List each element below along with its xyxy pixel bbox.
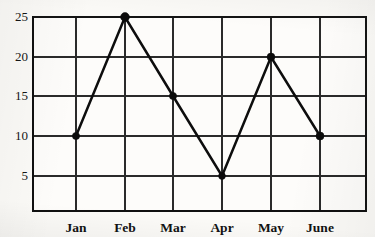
x-axis-tick-labels: Jan Feb Mar Apr May June xyxy=(65,220,333,235)
data-point-june xyxy=(316,132,324,140)
data-point-feb xyxy=(121,13,130,22)
data-point-may xyxy=(267,53,275,61)
data-point-jan xyxy=(72,132,79,139)
y-axis-tick-labels: 25 20 15 10 5 xyxy=(15,9,28,183)
x-tick-label-may: May xyxy=(258,220,284,235)
y-tick-label-5: 5 xyxy=(22,168,29,183)
y-tick-label-25: 25 xyxy=(15,9,28,24)
y-tick-label-10: 10 xyxy=(15,128,28,143)
x-tick-label-jan: Jan xyxy=(65,220,87,235)
x-tick-label-feb: Feb xyxy=(114,220,136,235)
data-point-apr xyxy=(219,173,226,180)
y-tick-label-15: 15 xyxy=(15,88,28,103)
x-tick-label-june: June xyxy=(306,220,334,235)
plot-background xyxy=(32,16,366,212)
y-tick-label-20: 20 xyxy=(15,49,28,64)
x-tick-label-apr: Apr xyxy=(210,220,233,235)
x-tick-label-mar: Mar xyxy=(160,220,185,235)
data-point-mar xyxy=(169,92,176,99)
chart-page: 25 20 15 10 5 Jan Feb Mar Apr May June xyxy=(0,0,375,237)
line-chart: 25 20 15 10 5 Jan Feb Mar Apr May June xyxy=(0,0,375,237)
